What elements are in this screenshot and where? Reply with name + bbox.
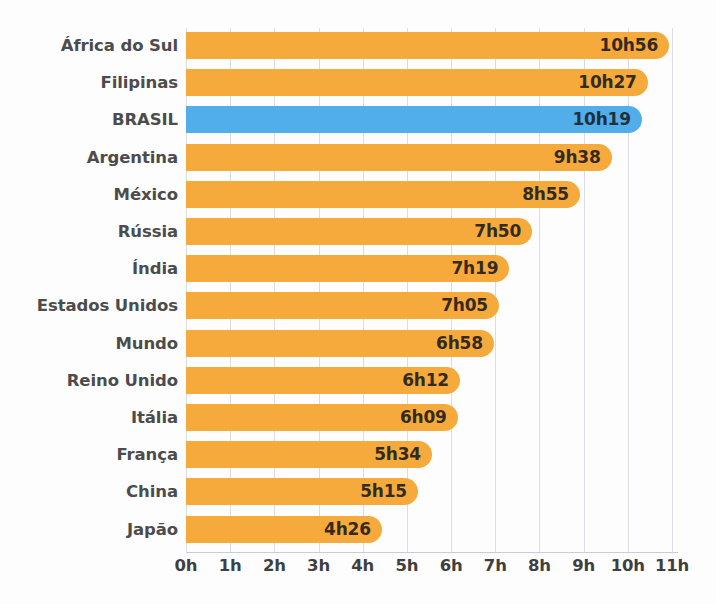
x-tick-label: 6h [440,556,463,575]
x-tick-label: 5h [395,556,418,575]
category-label: Mundo [115,330,178,357]
bar-value-label: 9h38 [554,144,601,171]
bar-value-label: 7h05 [441,292,488,319]
category-label: Itália [131,404,178,431]
bar-row: 8h55 [186,181,672,208]
category-label: México [114,181,178,208]
x-tick-label: 0h [175,556,198,575]
x-tick-label: 7h [484,556,507,575]
gridline-11h [672,28,673,552]
bar-value-label: 7h19 [451,255,498,282]
x-tick-label: 9h [572,556,595,575]
bar-row: 5h15 [186,478,672,505]
bar-row: 10h19 [186,106,672,133]
bar[interactable]: 6h12 [186,367,460,394]
x-axis-tick-labels: 0h1h2h3h4h5h6h7h8h9h10h11h [186,556,672,586]
x-tick-label: 11h [655,556,689,575]
bar[interactable]: 7h19 [186,255,509,282]
x-tick-label: 2h [263,556,286,575]
x-tick-label: 8h [528,556,551,575]
bar-value-label: 10h27 [578,69,636,96]
bar-value-label: 6h58 [436,330,483,357]
bar-value-label: 10h56 [600,32,658,59]
category-label: África do Sul [61,32,178,59]
bar[interactable]: 8h55 [186,181,580,208]
bar[interactable]: 6h58 [186,330,494,357]
category-label: Rússia [118,218,178,245]
x-tick-label: 3h [307,556,330,575]
x-tick-label: 10h [611,556,645,575]
bar[interactable]: 7h05 [186,292,499,319]
category-label: Índia [132,255,178,282]
bar[interactable]: 9h38 [186,144,612,171]
bar-row: 6h09 [186,404,672,431]
bar[interactable]: 10h27 [186,69,648,96]
bar-value-label: 5h15 [360,478,407,505]
x-tick-label: 1h [219,556,242,575]
x-axis-line [186,552,678,553]
bar-row: 7h05 [186,292,672,319]
bar-value-label: 4h26 [324,516,371,543]
bar-chart: África do SulFilipinasBRASILArgentinaMéx… [0,0,716,604]
bar-row: 7h19 [186,255,672,282]
bar[interactable]: 10h56 [186,32,669,59]
category-label: Japão [127,516,178,543]
bar-value-label: 8h55 [522,181,569,208]
bar[interactable]: 4h26 [186,516,382,543]
bar[interactable]: 5h34 [186,441,432,468]
bar[interactable]: 6h09 [186,404,458,431]
bar-row: 10h27 [186,69,672,96]
bar-row: 4h26 [186,516,672,543]
bar[interactable]: 5h15 [186,478,418,505]
bar[interactable]: 7h50 [186,218,532,245]
category-axis: África do SulFilipinasBRASILArgentinaMéx… [0,28,178,552]
bar-series: 10h5610h2710h199h388h557h507h197h056h586… [186,28,672,552]
category-label: Argentina [87,144,178,171]
category-label: Estados Unidos [37,292,178,319]
bar-row: 10h56 [186,32,672,59]
category-label: França [116,441,178,468]
bar-row: 7h50 [186,218,672,245]
bar-row: 9h38 [186,144,672,171]
bar[interactable]: 10h19 [186,106,642,133]
bar-row: 6h58 [186,330,672,357]
x-tick-label: 4h [351,556,374,575]
plot-area: 10h5610h2710h199h388h557h507h197h056h586… [186,28,672,552]
category-label: Reino Unido [67,367,178,394]
bar-value-label: 6h12 [402,367,449,394]
category-label: Filipinas [100,69,178,96]
category-label: BRASIL [112,106,178,133]
bar-row: 5h34 [186,441,672,468]
bar-row: 6h12 [186,367,672,394]
bar-value-label: 5h34 [374,441,421,468]
bar-value-label: 6h09 [400,404,447,431]
bar-value-label: 7h50 [474,218,521,245]
bar-value-label: 10h19 [572,106,630,133]
category-label: China [126,478,178,505]
